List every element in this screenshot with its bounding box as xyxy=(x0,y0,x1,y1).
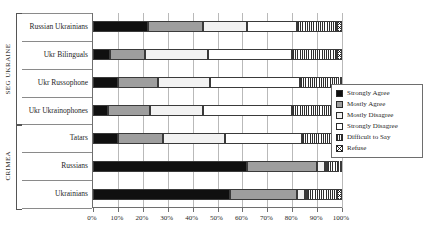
x-tick-70 xyxy=(267,208,268,212)
bar-segment-strongly-disagree xyxy=(210,77,300,88)
x-tick-10 xyxy=(118,208,119,212)
bar-row xyxy=(93,105,342,116)
x-tick-label-0: 0% xyxy=(87,214,96,222)
legend-swatch-difficult-to-say-icon xyxy=(336,134,343,141)
x-tick-30 xyxy=(168,208,169,212)
bar-segment-strongly-agree xyxy=(93,21,148,32)
bar-segment-mostly-disagree xyxy=(163,133,225,144)
category-label: Tatars xyxy=(22,133,88,143)
category-separator xyxy=(22,69,92,70)
bar-segment-refuse xyxy=(337,49,342,60)
legend-label: Difficult to Say xyxy=(347,132,390,143)
bar-segment-mostly-disagree xyxy=(150,105,202,116)
bar-segment-strongly-agree xyxy=(93,161,247,172)
category-separator xyxy=(22,152,92,153)
x-tick-60 xyxy=(242,208,243,212)
bar-segment-mostly-disagree xyxy=(317,161,324,172)
x-tick-label-10: 10% xyxy=(110,214,123,222)
category-separator xyxy=(22,180,92,181)
bar-segment-strongly-agree xyxy=(93,133,118,144)
legend-item: Strongly Agree xyxy=(336,88,418,99)
x-tick-label-80: 80% xyxy=(285,214,298,222)
bar-segment-mostly-disagree xyxy=(203,21,248,32)
category-label: Ukr Ukrainophones xyxy=(22,106,88,116)
bar-segment-refuse xyxy=(340,161,342,172)
bar-segment-strongly-agree xyxy=(93,189,230,200)
bar-segment-strongly-disagree xyxy=(225,133,302,144)
x-tick-100 xyxy=(342,208,343,212)
x-tick-80 xyxy=(292,208,293,212)
bar-segment-strongly-agree xyxy=(93,77,118,88)
legend: Strongly AgreeMostly AgreeMostly Disagre… xyxy=(331,84,423,158)
stacked-bar-chart: SEG UKRAINECRIMEA Russian UkrainiansUkr … xyxy=(0,0,426,238)
group-label: SEG UKRAINE xyxy=(4,13,12,124)
category-label: Russians xyxy=(22,161,88,171)
bar-segment-difficult-to-say xyxy=(292,49,337,60)
x-tick-20 xyxy=(143,208,144,212)
bar-segment-difficult-to-say xyxy=(292,105,334,116)
bar-row xyxy=(93,49,342,60)
bar-segment-refuse xyxy=(337,189,342,200)
category-label: Ukr Russophone xyxy=(22,78,88,88)
bar-row xyxy=(93,77,342,88)
bar-segment-mostly-disagree xyxy=(145,49,207,60)
bar-segment-mostly-disagree xyxy=(158,77,210,88)
category-separator xyxy=(22,208,92,209)
bar-segment-mostly-agree xyxy=(247,161,317,172)
legend-swatch-strongly-agree-icon xyxy=(336,90,343,97)
category-label: Ukrainians xyxy=(22,189,88,199)
x-tick-90 xyxy=(317,208,318,212)
bar-segment-strongly-agree xyxy=(93,49,110,60)
category-separator xyxy=(22,41,92,42)
x-tick-label-50: 50% xyxy=(210,214,223,222)
legend-item: Mostly Agree xyxy=(336,99,418,110)
x-tick-40 xyxy=(193,208,194,212)
bar-segment-mostly-disagree xyxy=(297,189,304,200)
x-tick-0 xyxy=(93,208,94,212)
bar-segment-mostly-agree xyxy=(118,133,163,144)
bar-row xyxy=(93,161,342,172)
category-label: Russian Ukrainians xyxy=(22,22,88,32)
bar-segment-refuse xyxy=(337,21,342,32)
bar-segment-mostly-agree xyxy=(230,189,297,200)
category-separator xyxy=(22,97,92,98)
legend-label: Mostly Disagree xyxy=(347,110,393,121)
bar-segment-difficult-to-say xyxy=(297,21,337,32)
x-tick-label-90: 90% xyxy=(310,214,323,222)
legend-swatch-refuse-icon xyxy=(336,145,343,152)
bar-segment-mostly-agree xyxy=(148,21,203,32)
legend-item: Difficult to Say xyxy=(336,132,418,143)
bar-segment-mostly-agree xyxy=(110,49,145,60)
bar-segment-strongly-disagree xyxy=(203,105,293,116)
x-tick-label-40: 40% xyxy=(185,214,198,222)
bar-segment-mostly-agree xyxy=(118,77,158,88)
bar-row xyxy=(93,21,342,32)
legend-swatch-mostly-disagree-icon xyxy=(336,112,343,119)
legend-item: Mostly Disagree xyxy=(336,110,418,121)
bar-segment-mostly-agree xyxy=(108,105,150,116)
bar-segment-strongly-disagree xyxy=(208,49,293,60)
legend-label: Strongly Disagree xyxy=(347,121,398,132)
legend-label: Mostly Agree xyxy=(347,99,385,110)
category-label: Ukr Bilinguals xyxy=(22,50,88,60)
bar-segment-strongly-disagree xyxy=(247,21,297,32)
x-tick-label-70: 70% xyxy=(260,214,273,222)
bar-segment-difficult-to-say xyxy=(327,161,339,172)
x-tick-50 xyxy=(218,208,219,212)
legend-swatch-strongly-disagree-icon xyxy=(336,123,343,130)
group-label: CRIMEA xyxy=(4,124,12,208)
x-tick-label-20: 20% xyxy=(135,214,148,222)
category-separator xyxy=(22,124,92,125)
legend-item: Refuse xyxy=(336,143,418,154)
legend-item: Strongly Disagree xyxy=(336,121,418,132)
legend-label: Refuse xyxy=(347,143,366,154)
plot-area xyxy=(92,13,342,208)
bar-segment-strongly-agree xyxy=(93,105,108,116)
bar-row xyxy=(93,133,342,144)
bar-segment-difficult-to-say xyxy=(307,189,337,200)
legend-label: Strongly Agree xyxy=(347,88,390,99)
bar-row xyxy=(93,189,342,200)
category-separator xyxy=(22,13,92,14)
x-tick-label-60: 60% xyxy=(235,214,248,222)
legend-swatch-mostly-agree-icon xyxy=(336,101,343,108)
